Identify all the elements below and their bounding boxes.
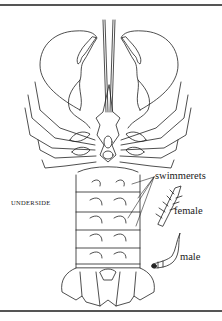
head: [96, 85, 120, 162]
tail: [62, 167, 155, 306]
left-legs: [25, 82, 96, 168]
lobster-illustration: [0, 0, 222, 321]
right-claw: [121, 31, 178, 128]
left-claw: [40, 31, 97, 128]
underside-label: UNDERSIDE: [11, 199, 51, 206]
swimmeret-leader-lines: [128, 177, 154, 226]
swimmerets-label: swimmerets: [155, 170, 206, 181]
male-label: male: [180, 251, 200, 262]
antennae: [103, 20, 115, 112]
female-label: female: [174, 205, 203, 216]
male-swimmeret-drawing: [152, 233, 181, 268]
